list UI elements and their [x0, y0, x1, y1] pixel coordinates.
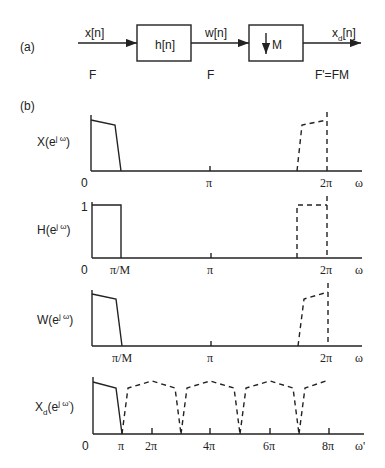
image-2 [181, 381, 240, 434]
tick-pi-over-m: π/M [112, 351, 132, 365]
tick-two-pi: 2π [320, 176, 332, 190]
rate-input: F [89, 68, 96, 82]
tick-pi-over-m: π/M [110, 263, 130, 277]
input-signal-label: x[n] [85, 26, 104, 40]
part-b-label: (b) [20, 99, 35, 113]
axis-omega: ω [355, 263, 363, 277]
filter-block-label: h[n] [155, 38, 175, 52]
axis-omega-prime: ω' [355, 439, 365, 453]
tick-two-pi: 2π [320, 263, 332, 277]
axis-omega: ω [355, 176, 363, 190]
intermediate-signal-label: w[n] [204, 26, 227, 40]
x-spectrum-panel: X(ej ω) 0 π 2π ω [37, 112, 363, 190]
h-spectrum-panel: 1 H(ej ω) 0 π/M π 2π ω [37, 196, 363, 277]
downsampler-label: M [272, 38, 282, 52]
baseband-spectrum [91, 120, 121, 171]
image-spectrum [297, 120, 327, 171]
tick-pi: π [206, 176, 212, 190]
tick-8pi-label: 8π [322, 439, 334, 453]
tick-zero: 0 [82, 439, 89, 453]
rate-output: F'=FM [315, 68, 349, 82]
lowpass-response [92, 205, 121, 258]
block-diagram: (a) x[n] h[n] w[n] M xd[n] F F F'=FM [20, 25, 361, 82]
baseband-spectrum [93, 382, 122, 434]
tick-6pi-label: 6π [263, 439, 275, 453]
xd-ylabel: Xd(ej ω') [35, 399, 74, 417]
tick-4pi-label: 4π [203, 439, 215, 453]
image-3 [240, 381, 299, 434]
tick-pi-label: π [118, 439, 124, 453]
tick-2pi-label: 2π [145, 439, 157, 453]
tick-one: 1 [81, 200, 88, 214]
output-signal-label: xd[n] [332, 26, 356, 43]
tick-zero: 0 [81, 263, 88, 277]
xd-spectrum-panel: Xd(ej ω') 0 π 2π 4π 6π 8π ω' [35, 377, 365, 453]
w-ylabel: W(ej ω) [37, 312, 73, 327]
baseband-spectrum [92, 294, 122, 346]
axis-omega: ω [355, 351, 363, 365]
tick-zero: 0 [81, 176, 88, 190]
rate-intermediate: F [207, 68, 214, 82]
tick-two-pi: 2π [320, 351, 332, 365]
part-a-label: (a) [20, 40, 35, 54]
tick-pi: π [207, 351, 213, 365]
tick-pi: π [207, 263, 213, 277]
image-response [297, 205, 327, 258]
image-spectrum [298, 292, 328, 346]
h-ylabel: H(ej ω) [37, 222, 71, 237]
w-spectrum-panel: W(ej ω) π/M π 2π ω [37, 283, 363, 365]
multirate-diagram: (a) x[n] h[n] w[n] M xd[n] F F F'=FM (b)… [0, 0, 385, 468]
image-4 [299, 380, 329, 434]
image-1 [122, 381, 181, 434]
x-ylabel: X(ej ω) [37, 134, 70, 149]
